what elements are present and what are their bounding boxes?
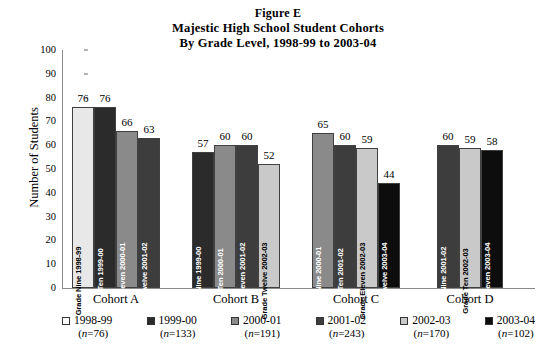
legend-sample-size: (n=133) (147, 327, 197, 340)
legend-item[interactable]: 2003-04(n=102) (485, 314, 535, 340)
chart-title-block: Figure E Majestic High School Student Co… (0, 6, 556, 51)
legend-swatch-icon (231, 317, 239, 325)
bar-group-bars: 65Grade Nine 2000-0160Grade Ten 2001-025… (312, 50, 400, 288)
bar-caption-label: Grade Twelve 2002-03 (260, 243, 269, 320)
bar-value-label: 60 (340, 131, 351, 142)
bar[interactable]: 58Grade Eleven 2003-04 (481, 150, 503, 288)
title-line-2: Majestic High School Student Cohorts (0, 21, 556, 36)
legend-item-top: 2001-02 (316, 314, 366, 327)
y-tick-label: 90 (26, 69, 56, 79)
bar-value-label: 59 (362, 134, 373, 145)
legend-item[interactable]: 1998-99(n=76) (62, 314, 112, 340)
bar[interactable]: 66Grade Eleven 2000-01 (116, 131, 138, 288)
y-tick-label: 100 (26, 45, 56, 55)
legend-label: 2003-04 (497, 314, 535, 327)
bar-caption-label: Grade Eleven 2000-01 (118, 243, 127, 320)
legend-label: 1998-99 (74, 314, 112, 327)
legend-swatch-icon (62, 317, 70, 325)
group-label: Cohort A (72, 292, 160, 307)
bar-caption-label: Grade Twelve 2001-02 (140, 243, 149, 320)
y-tick-label: 80 (26, 93, 56, 103)
legend-item[interactable]: 2000-01(n=191) (231, 314, 281, 340)
group-label: Cohort D (437, 292, 503, 307)
legend-sample-size: (n=102) (485, 327, 535, 340)
bar[interactable]: 60Grade Nine 2001-02 (437, 145, 459, 288)
legend-item[interactable]: 1999-00(n=133) (147, 314, 197, 340)
bar[interactable]: 65Grade Nine 2000-01 (312, 133, 334, 288)
group-label: Cohort B (192, 292, 280, 307)
bar[interactable]: 60Grade Eleven 2001-02 (236, 145, 258, 288)
bar-value-label: 65 (318, 119, 329, 130)
legend-item-top: 2003-04 (485, 314, 535, 327)
legend-label: 1999-00 (159, 314, 197, 327)
bar-value-label: 63 (144, 124, 155, 135)
bar[interactable]: 52Grade Twelve 2002-03 (258, 164, 280, 288)
bar-value-label: 52 (264, 150, 275, 161)
y-tick-label: 20 (26, 235, 56, 245)
y-tick-label: 30 (26, 212, 56, 222)
y-tick-label: 50 (26, 164, 56, 174)
bar[interactable]: 60Grade Ten 2001-02 (334, 145, 356, 288)
legend-swatch-icon (316, 317, 324, 325)
bar-value-label: 60 (443, 131, 454, 142)
bar-group-bars: 60Grade Nine 2001-0259Grade Ten 2002-035… (437, 50, 503, 288)
bar-value-label: 76 (100, 93, 111, 104)
legend-sample-size: (n=243) (316, 327, 366, 340)
bar[interactable]: 44Grade Twelve 2003-04 (378, 183, 400, 288)
legend-swatch-icon (400, 317, 408, 325)
y-tick-label: 10 (26, 259, 56, 269)
legend-label: 2001-02 (328, 314, 366, 327)
legend-sample-size: (n=170) (400, 327, 450, 340)
bar[interactable]: 60Grade Ten 2000-01 (214, 145, 236, 288)
figure-container: Figure E Majestic High School Student Co… (0, 0, 556, 361)
y-tick-label: 0 (26, 283, 56, 293)
bar-group-bars: 57Grade Nine 1999-0060Grade Ten 2000-016… (192, 50, 280, 288)
legend-item-top: 1999-00 (147, 314, 197, 327)
legend-swatch-icon (485, 317, 493, 325)
title-line-1: Figure E (0, 6, 556, 21)
bar-value-label: 76 (78, 93, 89, 104)
legend-item[interactable]: 2002-03(n=170) (400, 314, 450, 340)
bar[interactable]: 76Grade Ten 1999-00 (94, 107, 116, 288)
legend-item-top: 2002-03 (400, 314, 450, 327)
bar-value-label: 44 (384, 169, 395, 180)
y-tick-label: 70 (26, 116, 56, 126)
bar-value-label: 60 (220, 131, 231, 142)
bar-value-label: 59 (465, 134, 476, 145)
legend-item[interactable]: 2001-02(n=243) (316, 314, 366, 340)
group-label: Cohort C (312, 292, 400, 307)
legend-sample-size: (n=76) (62, 327, 112, 340)
legend-sample-size: (n=191) (231, 327, 281, 340)
legend-label: 2000-01 (243, 314, 281, 327)
bar-caption-label: Grade Eleven 2003-04 (483, 243, 492, 320)
bar-value-label: 58 (487, 136, 498, 147)
y-tick-label: 60 (26, 140, 56, 150)
bar-value-label: 60 (242, 131, 253, 142)
bar-caption-label: Grade Eleven 2001-02 (238, 243, 247, 320)
bar-caption-label: Grade Eleven 2002-03 (358, 243, 367, 320)
bar-group-bars: 76Grade Nine 1998-9976Grade Ten 1999-006… (72, 50, 160, 288)
plot-area: 76Grade Nine 1998-9976Grade Ten 1999-006… (62, 50, 535, 288)
bar[interactable]: 63Grade Twelve 2001-02 (138, 138, 160, 288)
bar[interactable]: 59Grade Ten 2002-03 (459, 148, 481, 288)
bar-value-label: 57 (198, 138, 209, 149)
bar-caption-label: Grade Twelve 2003-04 (380, 243, 389, 320)
legend-swatch-icon (147, 317, 155, 325)
bar-value-label: 66 (122, 117, 133, 128)
bar[interactable]: 59Grade Eleven 2002-03 (356, 148, 378, 288)
legend-item-top: 1998-99 (62, 314, 112, 327)
chart-legend: 1998-99(n=76)1999-00(n=133)2000-01(n=191… (62, 314, 535, 340)
bar[interactable]: 76Grade Nine 1998-99 (72, 107, 94, 288)
legend-item-top: 2000-01 (231, 314, 281, 327)
legend-label: 2002-03 (412, 314, 450, 327)
bar[interactable]: 57Grade Nine 1999-00 (192, 152, 214, 288)
y-axis-tick-labels: 1009080706050403020100 (26, 50, 56, 288)
y-tick-label: 40 (26, 188, 56, 198)
